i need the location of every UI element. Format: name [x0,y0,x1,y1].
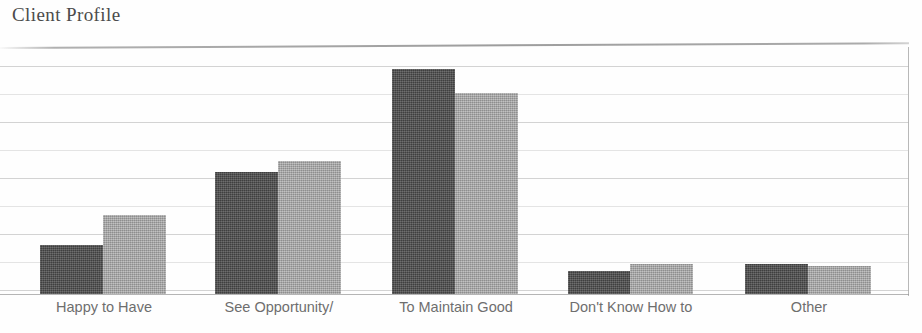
category-label-4: Don't Know How to [526,298,736,317]
bar-light-4 [630,264,693,294]
category-label-line1: Don't Know How to [570,299,693,315]
bar-dark-4 [568,271,631,294]
chart-page: Client Profile Happy to HaveSee Opportun… [0,0,922,333]
bar-light-3 [455,93,518,294]
bar-light-5 [808,266,871,294]
bar-dark-3 [392,69,455,294]
category-labels-group: Happy to HaveSee Opportunity/To Maintain… [0,298,922,333]
bars-group [0,47,922,295]
category-label-line1: Happy to Have [56,299,152,315]
page-title: Client Profile [12,3,121,27]
category-label-line1: Other [791,299,827,315]
bar-light-1 [103,215,166,294]
category-label-1: Happy to Have [9,298,199,317]
bar-light-2 [278,161,341,294]
bar-dark-1 [40,245,103,294]
category-label-2: See Opportunity/ [179,298,379,317]
category-label-5: Other [719,298,899,317]
category-label-line1: To Maintain Good [399,299,513,315]
bar-dark-5 [745,264,808,294]
category-label-line1: See Opportunity/ [225,299,334,315]
bar-dark-2 [215,172,278,294]
